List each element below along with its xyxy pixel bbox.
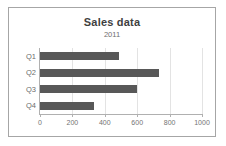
bar-row: Q1 <box>40 48 202 65</box>
bar-row: Q2 <box>40 65 202 82</box>
x-axis-tick-label: 0 <box>38 119 42 127</box>
x-axis-tick <box>137 114 138 117</box>
x-axis-tick-label: 800 <box>164 119 176 127</box>
chart-frame: Sales data 2011 02004006008001000Q1Q2Q3Q… <box>8 7 216 137</box>
x-axis-tick-label: 600 <box>131 119 143 127</box>
x-axis-tick-label: 400 <box>99 119 111 127</box>
chart-subtitle: 2011 <box>9 30 215 39</box>
plot-area: 02004006008001000Q1Q2Q3Q4 <box>39 48 202 115</box>
bar-row: Q3 <box>40 81 202 98</box>
x-axis-tick-label: 200 <box>67 119 79 127</box>
bar-q4[interactable] <box>40 102 94 110</box>
y-axis-category-label: Q2 <box>26 68 36 77</box>
y-axis-category-label: Q3 <box>26 85 36 94</box>
x-axis-tick <box>202 114 203 117</box>
bar-q3[interactable] <box>40 85 137 93</box>
x-axis-tick <box>72 114 73 117</box>
y-axis-category-label: Q4 <box>26 101 36 110</box>
x-axis-tick <box>170 114 171 117</box>
bar-q1[interactable] <box>40 52 119 60</box>
x-axis-tick-label: 1000 <box>194 119 210 127</box>
bar-row: Q4 <box>40 98 202 115</box>
y-axis-category-label: Q1 <box>26 52 36 61</box>
gridline <box>202 48 203 114</box>
bar-q2[interactable] <box>40 69 159 77</box>
chart-title: Sales data <box>9 16 215 28</box>
x-axis-tick <box>40 114 41 117</box>
x-axis-tick <box>105 114 106 117</box>
